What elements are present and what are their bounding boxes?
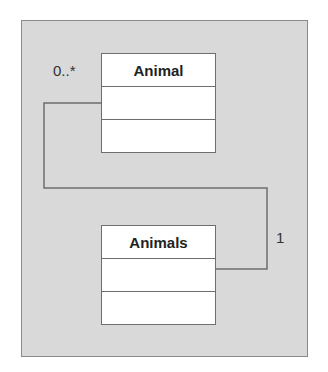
operations-compartment-animal	[102, 120, 215, 152]
attributes-compartment-animals	[102, 259, 215, 292]
multiplicity-animals: 1	[276, 229, 284, 246]
class-name-animal: Animal	[102, 54, 215, 87]
multiplicity-animal: 0..*	[53, 62, 76, 79]
operations-compartment-animals	[102, 292, 215, 324]
class-box-animals[interactable]: Animals	[101, 225, 216, 325]
class-name-animals: Animals	[102, 226, 215, 259]
class-box-animal[interactable]: Animal	[101, 53, 216, 153]
attributes-compartment-animal	[102, 87, 215, 120]
